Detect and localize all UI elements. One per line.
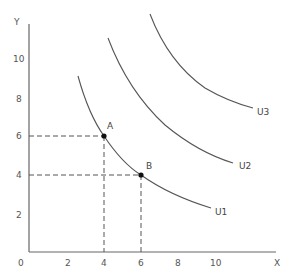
curve-u3-label: U3 bbox=[257, 107, 269, 117]
point-b bbox=[138, 172, 143, 177]
y-tick-2: 2 bbox=[16, 210, 22, 220]
point-a bbox=[101, 133, 106, 138]
curve-u1 bbox=[78, 76, 211, 208]
curve-u2 bbox=[108, 38, 233, 163]
x-tick-4: 4 bbox=[101, 258, 107, 268]
x-tick-8: 8 bbox=[175, 258, 181, 268]
x-axis-label: X bbox=[274, 258, 280, 268]
curve-u3 bbox=[150, 14, 253, 108]
y-tick-8: 8 bbox=[16, 94, 22, 104]
x-tick-10: 10 bbox=[210, 258, 222, 268]
curve-u1-label: U1 bbox=[215, 207, 227, 217]
y-axis-label: Y bbox=[13, 17, 20, 27]
y-tick-6: 6 bbox=[16, 131, 22, 141]
y-tick-4: 4 bbox=[16, 170, 22, 180]
point-b-label: B bbox=[146, 161, 152, 171]
indifference-curve-chart: Y X 10 8 6 4 2 0 2 4 6 8 10 A B U1 U2 U3 bbox=[0, 0, 298, 279]
x-tick-6: 6 bbox=[138, 258, 144, 268]
curve-u2-label: U2 bbox=[239, 161, 251, 171]
point-a-label: A bbox=[107, 121, 114, 131]
origin-label: 0 bbox=[18, 258, 24, 268]
y-tick-10: 10 bbox=[13, 54, 25, 64]
x-tick-2: 2 bbox=[65, 258, 71, 268]
